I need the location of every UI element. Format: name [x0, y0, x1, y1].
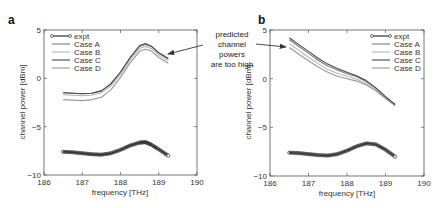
- legend-label: Case D: [74, 64, 101, 73]
- x-tick-label: 190: [417, 179, 431, 188]
- x-axis-label-b: frequency [THz]: [319, 189, 375, 198]
- x-tick-label: 189: [379, 179, 393, 188]
- y-tick-label: −10: [27, 171, 41, 180]
- series-group-b: [288, 38, 397, 158]
- data-point-marker: [394, 155, 397, 158]
- x-tick-label: 187: [76, 178, 90, 187]
- arrow-to-panel-a: [168, 45, 203, 54]
- annotation-line-2: channel: [218, 40, 246, 49]
- y-tick-label: 0: [37, 74, 42, 83]
- y-axis-label-a: channel power [dBm]: [18, 64, 27, 139]
- arrow-to-panel-b: [256, 44, 286, 47]
- y-tick-label: 5: [263, 26, 268, 35]
- y-axis-label-b: channel power [dBm]: [244, 64, 253, 139]
- axis-ticks-a: 186187188189190−10−505: [27, 26, 204, 187]
- x-tick-label: 189: [152, 178, 166, 187]
- series-line-case-d: [289, 48, 395, 106]
- y-tick-label: −10: [253, 172, 267, 181]
- data-point-marker: [167, 154, 170, 157]
- annotation-line-3: powers: [219, 50, 245, 59]
- annotation: predicted channel powers are too high: [168, 30, 286, 69]
- y-tick-label: −5: [32, 123, 42, 132]
- annotation-line-1: predicted: [216, 30, 249, 39]
- x-axis-label-a: frequency [THz]: [92, 188, 148, 197]
- chart-panel-a: a 186187188189190−10−505 frequency [THz]…: [8, 13, 204, 197]
- legend-label: Case D: [394, 64, 421, 73]
- legend-marker: [69, 35, 72, 38]
- annotation-line-4: are too high: [211, 60, 253, 69]
- series-line-case-b: [289, 44, 395, 106]
- y-tick-label: 0: [263, 75, 268, 84]
- series-line-case-c: [289, 38, 395, 105]
- y-tick-label: 5: [37, 26, 42, 35]
- x-tick-label: 188: [114, 178, 128, 187]
- chart-panel-b: b 186187188189190−10−505 frequency [THz]…: [244, 13, 431, 198]
- x-tick-label: 190: [190, 178, 204, 187]
- y-tick-label: −5: [258, 123, 268, 132]
- panel-label-a: a: [8, 13, 15, 27]
- panel-label-b: b: [258, 13, 265, 27]
- figure: a 186187188189190−10−505 frequency [THz]…: [0, 0, 448, 208]
- legend-a: exptCase ACase BCase CCase D: [51, 32, 101, 73]
- x-tick-label: 187: [302, 179, 316, 188]
- legend-b: exptCase ACase BCase CCase D: [371, 32, 421, 73]
- legend-marker: [371, 35, 374, 38]
- legend-marker: [389, 35, 392, 38]
- x-tick-label: 188: [340, 179, 354, 188]
- legend-marker: [51, 35, 54, 38]
